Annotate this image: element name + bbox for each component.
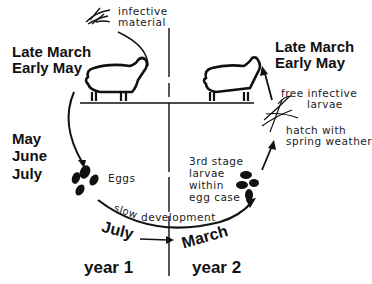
larvae-line1: 3rd stage xyxy=(189,155,243,167)
season-label-right: Late March Early May xyxy=(275,39,354,71)
egg-months-label: May June July xyxy=(12,130,47,182)
infective-material-icon xyxy=(86,8,110,24)
arrow-to-eggs xyxy=(69,92,82,162)
hatch-line2: spring weather xyxy=(286,136,372,147)
free-larvae-line2: larvae xyxy=(281,99,357,110)
time-arrow xyxy=(140,239,168,240)
infective-line2: material xyxy=(118,17,168,28)
development-label: development xyxy=(141,212,216,223)
month-may: May xyxy=(12,130,47,147)
eggs-left-icon xyxy=(70,164,100,198)
month-june: June xyxy=(12,147,47,164)
month-july: July xyxy=(12,165,47,182)
larvae-within-label: 3rd stage larvae within egg case xyxy=(189,155,243,203)
larvae-line3: within xyxy=(189,179,243,191)
sheep-right-icon xyxy=(204,57,260,101)
arrow-to-hatch xyxy=(262,146,272,170)
hatch-label: hatch with spring weather xyxy=(286,125,372,147)
season-left-line1: Late March xyxy=(12,44,91,60)
season-label-left: Late March Early May xyxy=(12,44,91,76)
larvae-line4: egg case xyxy=(189,191,243,203)
season-right-line1: Late March xyxy=(275,39,354,55)
year-2-label: year 2 xyxy=(192,259,241,277)
sheep-left-icon xyxy=(86,58,147,101)
season-right-line2: Early May xyxy=(275,55,354,71)
infective-material-label: infective material xyxy=(118,6,168,28)
larvae-line2: larvae xyxy=(189,167,243,179)
year-1-label: year 1 xyxy=(84,259,133,277)
eggs-label: Eggs xyxy=(108,173,135,184)
free-larvae-label: free infective larvae xyxy=(281,88,357,110)
infective-pointer xyxy=(118,32,148,66)
season-left-line2: Early May xyxy=(12,60,91,76)
